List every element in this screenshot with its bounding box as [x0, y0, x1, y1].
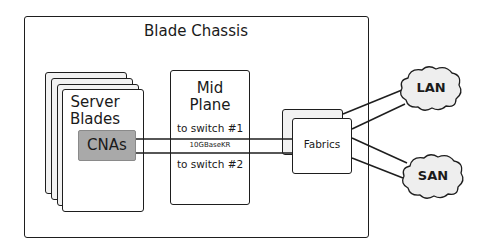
san-uplink-1	[352, 138, 407, 163]
connections	[0, 0, 489, 250]
lan-label: LAN	[406, 80, 456, 95]
san-uplink-2	[352, 158, 403, 178]
san-label: SAN	[408, 168, 458, 183]
